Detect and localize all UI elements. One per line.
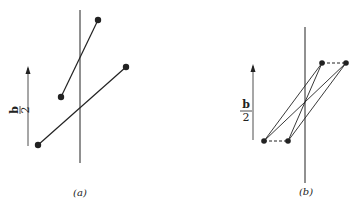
diagram-canvas: b 2 (a) b 2 (b) [0,0,361,208]
label-2-b: 2 [243,111,250,124]
point-b-top-left [319,60,325,66]
point-b-top-right [343,60,349,66]
point-a-lower-right [123,64,129,70]
caption-b: (b) [299,186,313,197]
point-a-upper-top [95,17,101,23]
arrowhead-b-icon [251,64,256,72]
lower-segment-a [38,67,126,145]
point-b-bottom-left [261,138,267,144]
point-b-bottom-right [285,138,291,144]
label-b-over-2-a: b 2 [8,106,32,114]
caption-a: (a) [73,187,87,198]
panel-a: b 2 (a) [8,10,129,198]
arrowhead-a-icon [26,66,31,74]
label-2-a: 2 [19,107,32,114]
label-b-over-2-b: b 2 [240,98,252,124]
label-b-b: b [242,98,250,111]
point-a-lower-left [35,142,41,148]
panel-b: b 2 (b) [240,27,349,197]
point-a-upper-bottom [58,94,64,100]
